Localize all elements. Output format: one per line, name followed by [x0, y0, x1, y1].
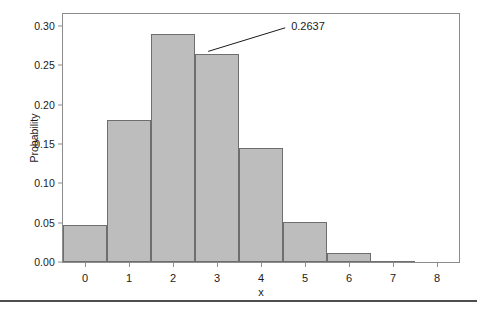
annotation-value-label: 0.2637: [291, 20, 325, 32]
bar: [107, 120, 151, 262]
y-axis-tick-mark: [58, 183, 63, 184]
y-axis-tick-mark: [58, 104, 63, 105]
bar: [239, 148, 283, 262]
x-axis-tick-mark: [349, 262, 350, 267]
bar: [195, 54, 239, 262]
bar: [371, 261, 415, 262]
x-axis-tick-mark: [305, 262, 306, 267]
x-axis-tick-mark: [437, 262, 438, 267]
y-axis-tick-mark: [58, 143, 63, 144]
x-axis-tick-mark: [129, 262, 130, 267]
x-axis-tick-mark: [393, 262, 394, 267]
x-axis-tick-mark: [173, 262, 174, 267]
x-axis-tick-mark: [217, 262, 218, 267]
y-axis-tick-mark: [58, 65, 63, 66]
plot-area: 0.000.050.100.150.200.250.30012345678: [63, 14, 459, 262]
bar: [151, 34, 195, 262]
x-axis-tick-mark: [85, 262, 86, 267]
bar: [63, 225, 107, 262]
x-axis-tick-mark: [261, 262, 262, 267]
bar: [283, 222, 327, 262]
figure-container: Probability 0.000.050.100.150.200.250.30…: [0, 0, 477, 309]
footer-divider: [0, 300, 477, 302]
y-axis-tick-mark: [58, 222, 63, 223]
bar: [327, 253, 371, 262]
y-axis-tick-mark: [58, 25, 63, 26]
x-axis-label: x: [258, 286, 264, 298]
